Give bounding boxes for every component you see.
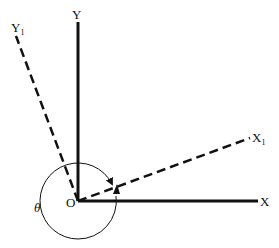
x1-axis-label: X1 [252,131,265,147]
x1-axis [78,138,250,201]
x-axis-label: X [260,195,269,208]
diagram-canvas [0,0,279,248]
y1-subscript: 1 [20,28,24,37]
y1-axis [16,36,78,201]
y1-axis-label: Y1 [11,21,24,37]
y-axis-label: Y [72,8,81,21]
origin-label: O [66,196,75,209]
theta-label: θ [34,201,40,214]
x1-label-text: X [252,130,261,145]
x1-subscript: 1 [261,138,265,147]
y1-label-text: Y [11,20,20,35]
axes-rotation-diagram: Y Y1 X1 X O θ [0,0,279,248]
